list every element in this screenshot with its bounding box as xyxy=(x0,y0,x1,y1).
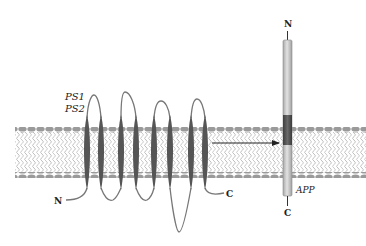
app-c-terminus-label: C xyxy=(284,208,291,218)
ps2-label: PS2 xyxy=(64,103,85,114)
helix-2 xyxy=(98,115,104,190)
app-protein xyxy=(283,31,292,206)
membrane-protein-diagram: PS1 PS2 N C APP N C xyxy=(0,0,366,246)
helix-6 xyxy=(167,115,173,190)
app-transmembrane-segment xyxy=(283,115,292,145)
presenilin-c-terminus-label: C xyxy=(226,189,233,199)
helix-8 xyxy=(202,115,208,190)
presenilin-n-terminus-label: N xyxy=(54,196,62,206)
app-n-terminus-label: N xyxy=(284,19,292,29)
ps1-label: PS1 xyxy=(64,91,85,102)
helix-7 xyxy=(188,115,194,190)
helix-3 xyxy=(118,115,124,190)
helix-1 xyxy=(84,115,90,190)
app-label: APP xyxy=(295,185,316,195)
helix-4 xyxy=(133,115,139,190)
helix-5 xyxy=(151,115,157,190)
